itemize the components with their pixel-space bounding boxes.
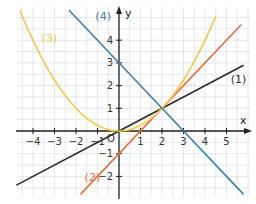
series-label-3: (3) (42, 32, 58, 45)
x-axis-label: x (240, 114, 247, 127)
series-label-1: (1) (231, 73, 247, 86)
series-line-4 (70, 11, 244, 194)
x-tick-label: −3 (47, 136, 62, 147)
y-axis-label: y (125, 7, 132, 20)
y-tick-label: −2 (98, 171, 113, 182)
x-tick-label: −1 (90, 136, 105, 147)
x-tick-label: 3 (180, 136, 186, 147)
series-label-2: (2) (85, 171, 101, 184)
series-label-4: (4) (95, 10, 111, 23)
x-tick-label: −4 (26, 136, 41, 147)
x-tick-label: 5 (223, 136, 229, 147)
x-tick-label: 2 (159, 136, 165, 147)
x-tick-label: 1 (137, 136, 143, 147)
y-tick-label: 4 (107, 35, 113, 46)
x-tick-label: −2 (69, 136, 84, 147)
x-tick-label: 4 (202, 136, 208, 147)
y-tick-label: 2 (107, 80, 113, 91)
origin-label: O (107, 133, 115, 144)
function-graph: −4−3−2−112345−2−11234Oxy(1)(2)(3)(4) (0, 0, 256, 204)
y-tick-label: 3 (107, 57, 113, 68)
labels: −4−3−2−112345−2−11234Oxy(1)(2)(3)(4) (26, 7, 247, 184)
y-tick-label: 1 (107, 103, 113, 114)
y-axis-arrow-icon (116, 6, 122, 14)
y-tick-label: −1 (98, 148, 113, 159)
